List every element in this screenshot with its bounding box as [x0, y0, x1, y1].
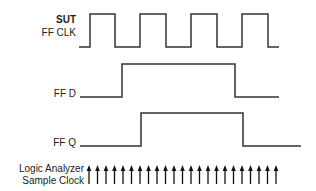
- arrow-head-icon: [146, 165, 151, 171]
- arrow-head-icon: [265, 165, 270, 171]
- ff-q-waveform: [80, 113, 301, 146]
- ff-d-waveform: [80, 64, 279, 97]
- arrow-head-icon: [223, 165, 228, 171]
- arrow-head-icon: [189, 165, 194, 171]
- sample-clock-arrows: [87, 165, 279, 184]
- arrow-head-icon: [257, 165, 262, 171]
- arrow-head-icon: [129, 165, 134, 171]
- arrow-head-icon: [214, 165, 219, 171]
- arrow-head-icon: [172, 165, 177, 171]
- ff-clk-waveform: [79, 14, 279, 47]
- arrow-head-icon: [112, 165, 117, 171]
- arrow-head-icon: [248, 165, 253, 171]
- arrow-head-icon: [87, 165, 92, 171]
- arrow-head-icon: [155, 165, 160, 171]
- arrow-head-icon: [197, 165, 202, 171]
- arrow-head-icon: [240, 165, 245, 171]
- arrow-head-icon: [274, 165, 279, 171]
- arrow-head-icon: [180, 165, 185, 171]
- arrow-head-icon: [138, 165, 143, 171]
- arrow-head-icon: [206, 165, 211, 171]
- timing-diagram: [0, 0, 316, 191]
- arrow-head-icon: [121, 165, 126, 171]
- arrow-head-icon: [95, 165, 100, 171]
- arrow-head-icon: [163, 165, 168, 171]
- arrow-head-icon: [231, 165, 236, 171]
- arrow-head-icon: [104, 165, 109, 171]
